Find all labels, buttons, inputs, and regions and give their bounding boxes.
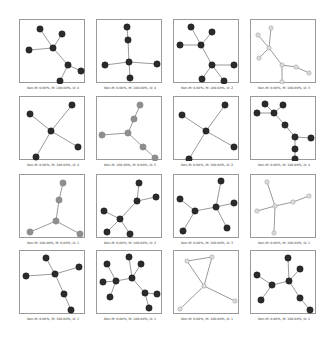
- graph-node: [48, 128, 54, 134]
- graph-node: [153, 194, 159, 200]
- graph-node: [198, 42, 204, 48]
- graph-node: [101, 208, 107, 214]
- molecule-graph: [20, 251, 86, 315]
- graph-node: [138, 261, 144, 267]
- graph-node: [224, 225, 230, 231]
- graph-edge: [120, 201, 137, 219]
- graph-node: [59, 31, 65, 37]
- graph-frame: [19, 19, 85, 83]
- graph-node: [37, 26, 43, 32]
- graph-node: [154, 291, 160, 297]
- graph-edge: [30, 114, 51, 131]
- graph-edge: [257, 206, 275, 211]
- graph-node: [192, 208, 198, 214]
- graph-node: [272, 231, 276, 235]
- panel-caption: Non-M: 0.00%, M: 100.00%, O: 4: [90, 86, 170, 90]
- molecule-graph: [251, 251, 317, 315]
- graph-node: [282, 122, 288, 128]
- graph-node: [127, 231, 133, 237]
- graph-frame: [250, 19, 316, 83]
- graph-node: [297, 266, 303, 272]
- graph-edge: [216, 181, 221, 207]
- graph-node: [257, 56, 261, 60]
- graph-node: [125, 130, 131, 136]
- molecule-graph: [20, 175, 86, 239]
- molecule-graph: [97, 20, 163, 84]
- graph-node: [99, 132, 105, 138]
- graph-node: [179, 112, 185, 118]
- graph-node: [78, 68, 84, 74]
- panel-caption: Non-M: 100.00%, M: 0.00%, O: 1: [13, 241, 93, 245]
- panel-caption: Non-M: 0.00%, M: 100.00%, O: 4: [13, 86, 93, 90]
- graph-edge: [29, 48, 53, 50]
- graph-node: [113, 278, 119, 284]
- graph-node: [269, 26, 273, 30]
- graph-frame: [173, 96, 239, 160]
- graph-edge: [26, 274, 55, 276]
- graph-node: [50, 45, 56, 51]
- graph-frame: [19, 250, 85, 314]
- panel-caption: Non-M: 100.00%, M: 0.00%, O: 5: [90, 163, 170, 167]
- graph-edge: [293, 196, 309, 202]
- graph-edge: [216, 207, 227, 228]
- graph-frame: [96, 96, 162, 160]
- graph-edge: [189, 131, 206, 159]
- graph-frame: [173, 174, 239, 238]
- graph-node: [134, 198, 140, 204]
- graph-node: [52, 271, 58, 277]
- graph-node: [221, 78, 227, 84]
- graph-node: [142, 290, 148, 296]
- graph-node: [254, 110, 260, 116]
- graph-frame: [250, 174, 316, 238]
- molecule-graph: [174, 20, 240, 84]
- graph-node: [23, 273, 29, 279]
- panel-caption: Non-M: 0.00%, M: 100.00%, O: 1: [90, 317, 170, 321]
- graph-node: [307, 71, 311, 75]
- panel-caption: Non-M: 0.00%, M: 100.00%, O: 4: [244, 163, 324, 167]
- graph-edge: [288, 258, 289, 281]
- graph-node: [26, 47, 32, 53]
- graph-edge: [51, 105, 72, 131]
- graph-node: [104, 261, 110, 267]
- graph-node: [307, 307, 313, 313]
- graph-node: [222, 102, 228, 108]
- graph-edge: [269, 48, 282, 65]
- molecule-graph: [20, 20, 86, 84]
- graph-edge: [36, 131, 51, 157]
- panel-caption: Non-M: 0.00%, M: 100.00%, O: 1: [244, 317, 324, 321]
- graph-node: [210, 255, 214, 259]
- panel-caption: Non-M: 0.00%, M: 100.00%, O: 2: [90, 241, 170, 245]
- panel-caption: Non-M: 0.00%, M: 100.00%, O: 2: [167, 86, 247, 90]
- graph-node: [27, 229, 33, 235]
- graph-node: [43, 255, 49, 261]
- graph-frame: [96, 174, 162, 238]
- graph-edge: [55, 267, 79, 274]
- graph-node: [285, 255, 291, 261]
- graph-node: [65, 62, 71, 68]
- graph-node: [61, 291, 67, 297]
- graph-node: [231, 62, 237, 68]
- graph-node: [255, 209, 259, 213]
- graph-node: [104, 229, 110, 235]
- graph-node: [129, 275, 135, 281]
- graph-node: [100, 279, 106, 285]
- graph-edge: [206, 131, 234, 147]
- panel-caption: Non-M: 0.00%, M: 100.00%, O: 3: [167, 241, 247, 245]
- graph-frame: [250, 96, 316, 160]
- graph-node: [102, 62, 108, 68]
- graph-node: [203, 128, 209, 134]
- graph-node: [53, 218, 59, 224]
- graph-node: [136, 180, 142, 186]
- graph-edge: [56, 221, 80, 234]
- graph-edge: [206, 105, 225, 131]
- graph-edge: [183, 211, 195, 231]
- graph-node: [213, 204, 219, 210]
- graph-edge: [182, 115, 206, 131]
- graph-node: [117, 216, 123, 222]
- graph-edge: [274, 206, 275, 233]
- graph-frame: [19, 96, 85, 160]
- graph-node: [140, 144, 146, 150]
- graph-node: [154, 61, 160, 67]
- panel-caption: Non-M: 0.00%, M: 100.00%, O: 1: [13, 317, 93, 321]
- graph-frame: [96, 250, 162, 314]
